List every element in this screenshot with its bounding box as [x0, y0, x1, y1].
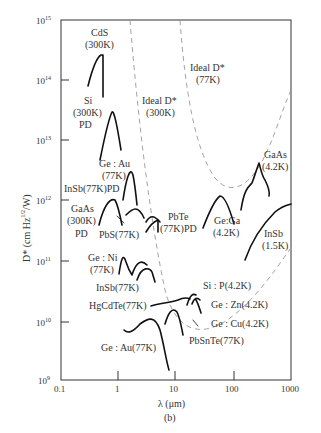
svg-text:(300K): (300K) [85, 39, 114, 51]
label-gezn: Ge : Zn(4.2K) [211, 299, 268, 311]
label-geau-77k: Ge : Au [99, 158, 130, 169]
hgcdte-curve [151, 298, 190, 306]
y-axis-label: D* (cm Hz1/2/W) [20, 194, 33, 262]
ytick-11: 1011 [36, 256, 51, 267]
label-hgcdte: HgCdTe(77K) [89, 300, 147, 312]
svg-text:(1.5K): (1.5K) [262, 240, 288, 252]
svg-text:(77K): (77K) [102, 170, 126, 182]
svg-text:(77K): (77K) [90, 264, 114, 276]
ytick-10: 1010 [36, 317, 51, 328]
geni-curve [119, 258, 147, 275]
sip-gezn-gecu-curves [187, 294, 201, 313]
svg-text:(4.2K): (4.2K) [213, 227, 239, 239]
series-labels: CdS (300K) Si (300K) PD Ideal D* (300K) … [64, 27, 288, 354]
ytick-12: 1012 [36, 195, 51, 206]
label-geni: Ge : Ni [88, 252, 118, 263]
svg-text:(300K): (300K) [67, 215, 96, 227]
ytick-13: 1013 [36, 135, 51, 146]
label-insb-1.5k: InSb [264, 228, 283, 239]
si-curve [100, 112, 121, 160]
label-insb-77k: InSb(77K) [96, 282, 139, 294]
label-insb-pd: InSb(77K)PD [64, 183, 120, 195]
pbte-curve [146, 220, 158, 232]
xtick-1000: 1000 [281, 384, 300, 394]
pbsnte-curve [165, 310, 183, 335]
svg-text:(300K): (300K) [146, 107, 175, 119]
label-gega: Ge:Ga [214, 215, 241, 226]
svg-text:(4.2K): (4.2K) [262, 161, 288, 173]
xtick-100: 100 [225, 384, 239, 394]
detectivity-chart: 1015 1014 1013 1012 1011 1010 109 D* (cm… [0, 0, 321, 433]
label-si: Si [84, 95, 93, 106]
x-axis: 0.1 1 10 100 1000 λ (μm) (b) [54, 371, 300, 424]
label-pbte: PbTe [168, 211, 189, 222]
label-pbs: PbS(77K) [99, 229, 139, 241]
ytick-14: 1014 [36, 75, 51, 86]
xtick-1: 1 [115, 384, 120, 394]
insb-pd-curve [126, 209, 144, 218]
svg-text:(77K): (77K) [196, 74, 220, 86]
gecu-pointer [193, 320, 198, 326]
svg-text:PD: PD [79, 119, 92, 130]
figure-caption: (b) [164, 412, 176, 424]
label-ideal-300k: Ideal D* [142, 95, 177, 106]
label-ideal-77k: Ideal D* [190, 62, 225, 73]
svg-text:(300K): (300K) [73, 107, 102, 119]
label-pbsnte: PbSnTe(77K) [189, 335, 244, 347]
label-gecu: Ge : Cu(4.2K) [211, 318, 269, 330]
label-gaas-300k: GaAs [71, 203, 94, 214]
insb-77k-curve [137, 269, 155, 282]
ytick-9: 109 [38, 375, 50, 386]
svg-text:(77K)PD: (77K)PD [160, 223, 197, 235]
x-axis-label: λ (μm) [158, 398, 185, 410]
gaas-300k-curve [99, 200, 122, 225]
ytick-15: 1015 [36, 15, 51, 26]
label-gaas-4.2k: GaAs [264, 149, 287, 160]
svg-text:PD: PD [75, 228, 88, 239]
y-axis: 1015 1014 1013 1012 1011 1010 109 D* (cm… [20, 15, 69, 386]
label-sip: Si : P(4.2K) [203, 280, 251, 292]
xtick-0.1: 0.1 [54, 384, 65, 394]
label-geau-77k-b: Ge : Au(77K) [101, 342, 156, 354]
cds-curve [88, 55, 103, 97]
xtick-10: 10 [169, 384, 179, 394]
label-cds: CdS [91, 27, 108, 38]
